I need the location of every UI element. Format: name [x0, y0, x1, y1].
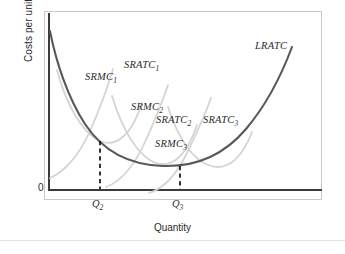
label-srmc2: SRMC2: [131, 101, 163, 115]
x-axis-label: Quantity: [0, 222, 345, 233]
origin-label: 0: [38, 182, 44, 193]
label-srmc3: SRMC3: [155, 138, 187, 152]
x-tick-label-q3: Q3: [172, 198, 183, 212]
label-sratc1: SRATC1: [124, 59, 159, 73]
page-divider: [0, 240, 345, 241]
label-lratc: LRATC: [255, 40, 287, 51]
label-sratc2: SRATC2: [156, 114, 191, 128]
label-srmc1: SRMC1: [85, 71, 117, 85]
label-sratc3: SRATC3: [203, 114, 238, 128]
x-tick-label-q2: Q2: [92, 198, 103, 212]
cost-curve-figure: LRATC SRMC1 SRATC1 SRMC2 SRATC2 SRATC3 S…: [0, 0, 345, 254]
y-axis-label: Costs per unit: [23, 50, 34, 62]
